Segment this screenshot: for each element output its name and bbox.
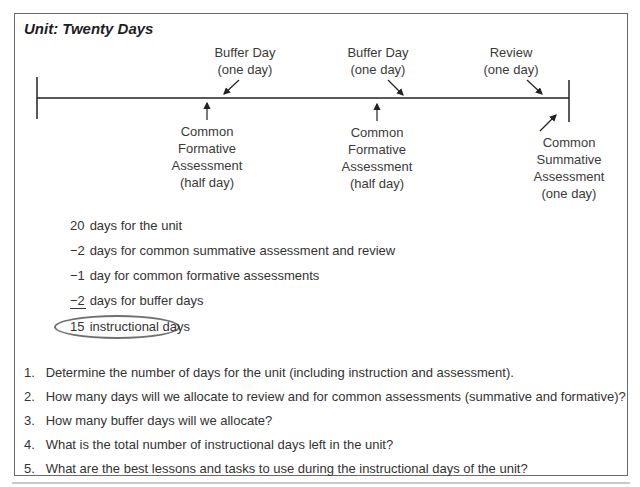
- calc-result: 15 instructional days: [70, 319, 190, 334]
- label-buffer-day-2: Buffer Day(one day): [347, 44, 408, 78]
- label-formative-2: CommonFormativeAssessment(half day): [342, 124, 413, 192]
- question-item: 2. How many days will we allocate to rev…: [24, 389, 626, 404]
- calc-line: −2 days for common summative assessment …: [70, 243, 395, 258]
- arrow-icon: [540, 115, 556, 131]
- label-summative: CommonSummativeAssessment(one day): [534, 134, 605, 202]
- bottom-rule: [12, 482, 630, 484]
- calc-line: −1 day for common formative assessments: [70, 268, 319, 283]
- label-review: Review(one day): [484, 44, 539, 78]
- question-item: 5. What are the best lessons and tasks t…: [24, 461, 528, 476]
- question-item: 3. How many buffer days will we allocate…: [24, 413, 272, 428]
- arrow-icon: [224, 80, 239, 94]
- arrow-icon: [388, 80, 403, 95]
- arrow-icon: [527, 80, 542, 94]
- calc-line: −2 days for buffer days: [70, 293, 204, 309]
- label-formative-1: CommonFormativeAssessment(half day): [172, 123, 243, 191]
- question-item: 1. Determine the number of days for the …: [24, 365, 514, 380]
- label-buffer-day-1: Buffer Day(one day): [214, 44, 275, 78]
- question-item: 4. What is the total number of instructi…: [24, 437, 393, 452]
- calc-line: 20 days for the unit: [70, 218, 182, 233]
